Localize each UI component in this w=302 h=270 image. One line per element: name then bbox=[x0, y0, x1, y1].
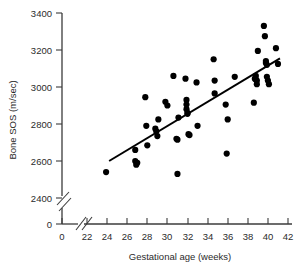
x-tick-label-22: 22 bbox=[82, 231, 93, 242]
data-point bbox=[164, 102, 170, 108]
x-tick-label-32: 32 bbox=[183, 231, 194, 242]
x-axis-group: 0 22 24 26 28 30 32 34 36 38 40 42 Gesta… bbox=[59, 217, 293, 262]
y-tick-label-2400: 2400 bbox=[31, 193, 52, 204]
y-tick-label-3000: 3000 bbox=[31, 82, 52, 93]
y-tick-label-2600: 2600 bbox=[31, 156, 52, 167]
scatter-plot-figure: 3400 3200 3000 2800 2600 2400 0 Bone SOS… bbox=[0, 0, 302, 270]
data-point bbox=[232, 74, 238, 80]
data-point bbox=[144, 142, 150, 148]
data-point bbox=[182, 76, 188, 82]
data-point bbox=[103, 169, 109, 175]
data-point bbox=[193, 79, 199, 85]
data-point bbox=[212, 77, 218, 83]
x-tick-label-38: 38 bbox=[243, 231, 254, 242]
data-point bbox=[264, 62, 270, 68]
y-tick-marks bbox=[56, 13, 62, 224]
data-point bbox=[262, 33, 268, 39]
x-tick-label-34: 34 bbox=[203, 231, 214, 242]
x-tick-label-0: 0 bbox=[59, 231, 64, 242]
data-point bbox=[194, 123, 200, 129]
y-tick-label-2800: 2800 bbox=[31, 119, 52, 130]
data-point bbox=[223, 101, 229, 107]
data-point bbox=[255, 48, 261, 54]
data-point bbox=[251, 100, 257, 106]
data-point bbox=[143, 123, 149, 129]
data-point bbox=[155, 116, 161, 122]
data-point bbox=[254, 81, 260, 87]
y-axis-break-icon bbox=[57, 192, 71, 211]
data-point bbox=[212, 90, 218, 96]
data-point bbox=[275, 61, 281, 67]
x-tick-label-24: 24 bbox=[102, 231, 113, 242]
x-tick-label-26: 26 bbox=[122, 231, 133, 242]
data-point bbox=[266, 81, 272, 87]
data-point bbox=[224, 151, 230, 157]
data-point bbox=[132, 147, 138, 153]
data-point bbox=[184, 111, 190, 117]
data-point bbox=[134, 160, 140, 166]
x-tick-label-42: 42 bbox=[283, 231, 294, 242]
data-point bbox=[186, 132, 192, 138]
y-axis-group: 3400 3200 3000 2800 2600 2400 0 Bone SOS… bbox=[7, 8, 71, 230]
x-tick-label-30: 30 bbox=[162, 231, 173, 242]
y-tick-label-3400: 3400 bbox=[31, 8, 52, 19]
x-tick-label-28: 28 bbox=[142, 231, 153, 242]
data-point bbox=[225, 116, 231, 122]
data-point bbox=[142, 94, 148, 100]
data-point bbox=[174, 171, 180, 177]
data-point bbox=[174, 137, 180, 143]
x-tick-label-36: 36 bbox=[223, 231, 234, 242]
data-point bbox=[170, 73, 176, 79]
data-point bbox=[175, 114, 181, 120]
data-point bbox=[261, 23, 267, 29]
x-axis-title: Gestational age (weeks) bbox=[129, 251, 231, 262]
data-point bbox=[154, 133, 160, 139]
data-point bbox=[211, 56, 217, 62]
x-tick-marks bbox=[62, 218, 288, 224]
data-point bbox=[273, 45, 279, 51]
y-tick-label-3200: 3200 bbox=[31, 45, 52, 56]
y-tick-label-0: 0 bbox=[47, 219, 52, 230]
y-axis-title: Bone SOS (m/sec) bbox=[7, 80, 18, 159]
chart-canvas: 3400 3200 3000 2800 2600 2400 0 Bone SOS… bbox=[0, 0, 302, 270]
data-points-group bbox=[103, 23, 281, 177]
x-tick-label-40: 40 bbox=[263, 231, 274, 242]
